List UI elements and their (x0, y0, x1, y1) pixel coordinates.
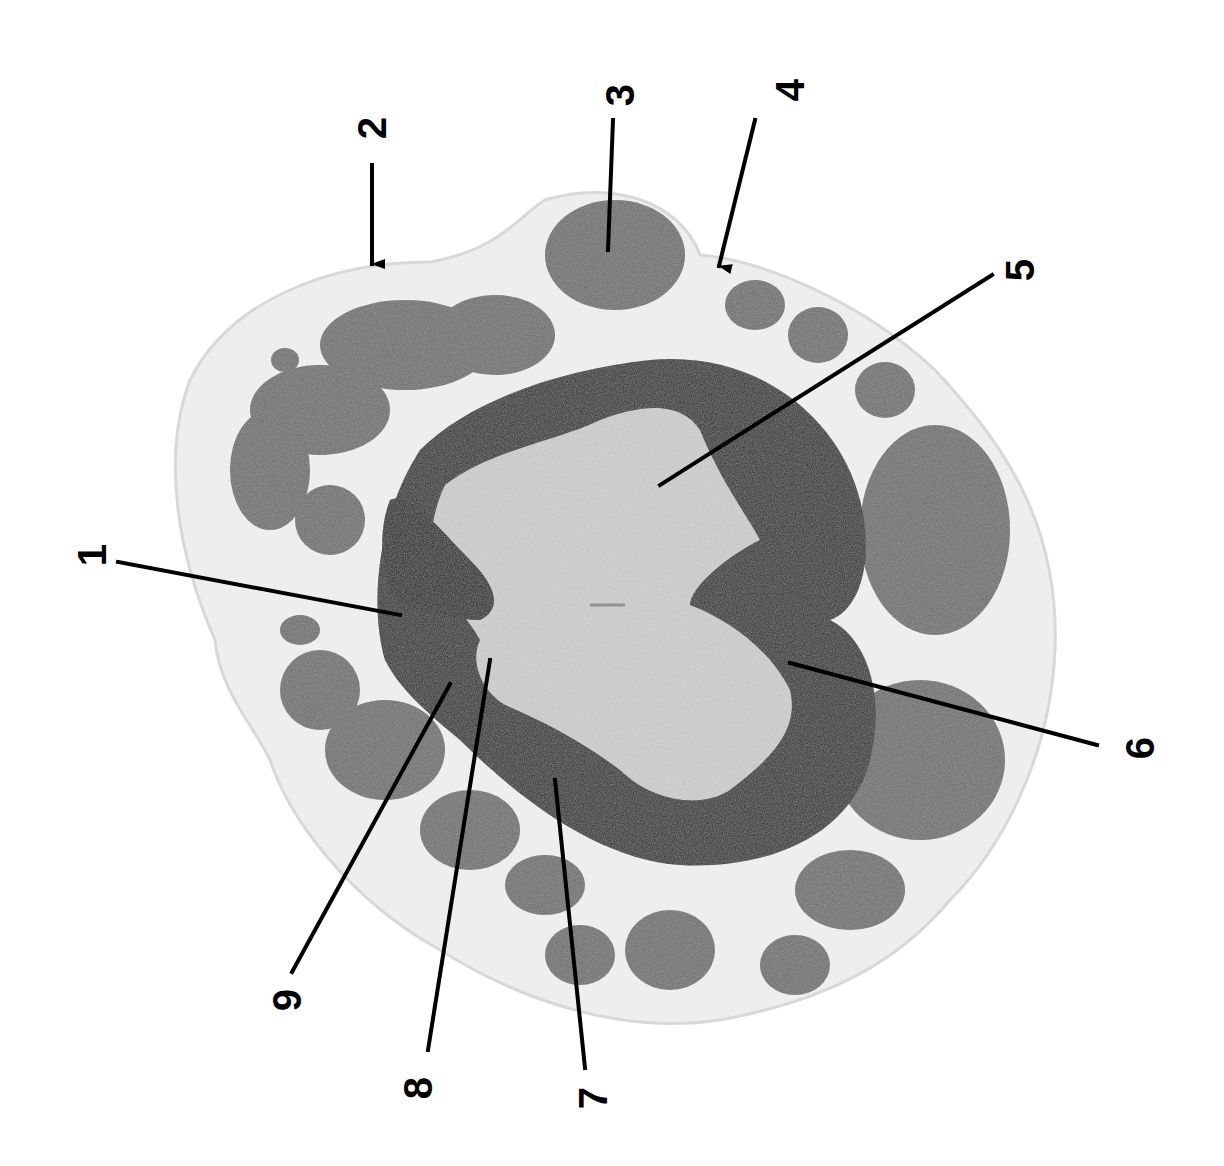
arrow-4 (719, 120, 755, 266)
label-1: 1 (72, 535, 112, 575)
label-7: 7 (573, 1078, 613, 1118)
label-8: 8 (398, 1068, 438, 1108)
nerve-bundle-3 (545, 200, 685, 310)
label-5: 5 (1000, 250, 1040, 290)
histology-figure (0, 0, 1224, 1166)
label-3: 3 (600, 75, 640, 115)
label-6: 6 (1120, 728, 1160, 768)
label-4: 4 (770, 70, 810, 110)
label-2: 2 (352, 108, 392, 148)
label-9: 9 (267, 980, 307, 1020)
